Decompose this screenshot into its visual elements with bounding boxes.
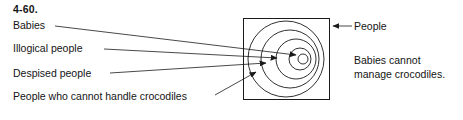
caption-line-1: Babies cannot bbox=[354, 54, 445, 68]
label-illogical-people: Illogical people bbox=[13, 43, 82, 54]
circle-babies-inner bbox=[298, 54, 308, 64]
circle-illogical-people bbox=[276, 39, 316, 79]
label-babies: Babies bbox=[13, 20, 45, 31]
circle-people-who-cannot-handle-crocodiles bbox=[248, 21, 324, 97]
leader-line-babies bbox=[55, 26, 296, 55]
exercise-number: 4-60. bbox=[13, 4, 38, 15]
label-people-who-cannot-handle-crocodiles: People who cannot handle crocodiles bbox=[13, 91, 187, 102]
leader-line-crocodile-handlers bbox=[215, 72, 256, 95]
figure-container: 4-60. Babies Illogical people Despised p… bbox=[0, 0, 463, 120]
leader-line-illogical-people bbox=[104, 49, 277, 58]
circle-despised-people bbox=[261, 30, 319, 88]
caption-line-2: manage crocodiles. bbox=[354, 68, 445, 82]
label-people: People bbox=[354, 21, 387, 32]
leader-line-despised-people bbox=[110, 63, 266, 73]
label-despised-people: Despised people bbox=[13, 68, 91, 79]
caption-block: Babies cannot manage crocodiles. bbox=[354, 54, 445, 81]
